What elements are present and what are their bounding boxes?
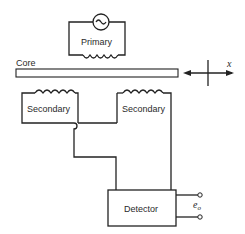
secondary-right-label: Secondary [122, 104, 166, 114]
core-bar [16, 69, 178, 77]
core-label: Core [16, 58, 36, 68]
primary-label: Primary [81, 37, 112, 47]
output-terminals: eo [176, 193, 202, 219]
primary-circuit: Primary [69, 14, 125, 58]
detector-block: Detector [108, 190, 176, 226]
terminal-top [198, 193, 202, 197]
secondary-left-coil-icon [35, 90, 75, 93]
output-voltage-label: eo [193, 199, 201, 212]
arrow-right-icon [226, 70, 234, 76]
series-wiring [72, 123, 117, 190]
motion-axis: x [183, 58, 234, 86]
secondary-left-label: Secondary [27, 104, 71, 114]
secondary-right-coil-icon [123, 90, 163, 93]
arrow-left-icon [183, 70, 191, 76]
sine-wave-icon [96, 20, 106, 24]
detector-label: Detector [124, 204, 158, 214]
lvdt-diagram: Primary Core x Secondary Secondary Detec… [0, 0, 245, 234]
x-axis-label: x [226, 58, 232, 69]
secondary-right: Secondary [117, 90, 171, 190]
secondary-left: Secondary [22, 90, 78, 123]
terminal-bottom [198, 215, 202, 219]
primary-coil-icon [83, 55, 118, 58]
